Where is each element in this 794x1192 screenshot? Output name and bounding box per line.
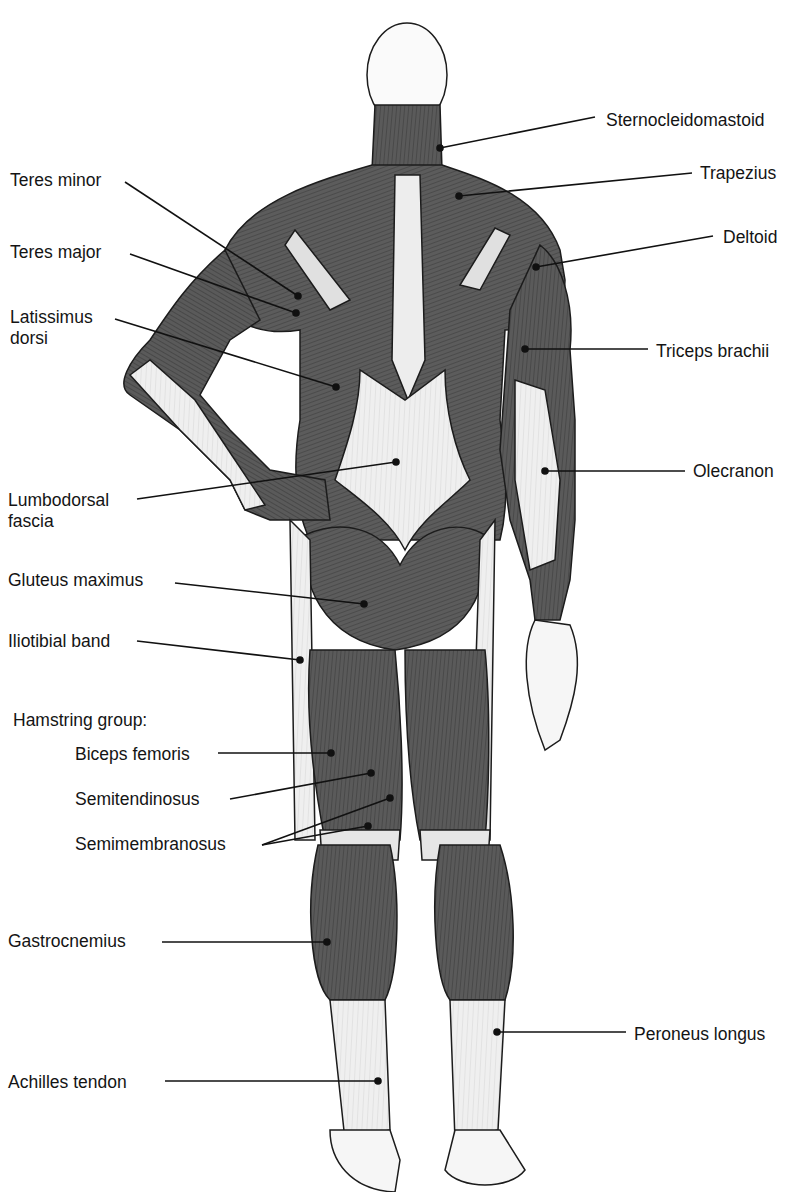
label-gastrocnemius: Gastrocnemius bbox=[8, 931, 126, 952]
label-teres-major: Teres major bbox=[10, 242, 101, 263]
label-deltoid: Deltoid bbox=[723, 227, 777, 248]
label-teres-minor: Teres minor bbox=[10, 170, 101, 191]
label-achilles-tendon: Achilles tendon bbox=[8, 1072, 127, 1093]
anatomy-figure bbox=[0, 0, 794, 1192]
label-semimembranosus: Semimembranosus bbox=[75, 834, 226, 855]
label-sternocleidomastoid: Sternocleidomastoid bbox=[606, 110, 765, 131]
label-iliotibial-band: Iliotibial band bbox=[8, 631, 110, 652]
label-biceps-femoris: Biceps femoris bbox=[75, 744, 190, 765]
body-silhouette bbox=[124, 23, 578, 1192]
label-hamstring-group: Hamstring group: bbox=[13, 710, 147, 731]
label-trapezius: Trapezius bbox=[700, 163, 776, 184]
label-lumbodorsal-fascia: Lumbodorsal fascia bbox=[8, 490, 109, 532]
label-gluteus-maximus: Gluteus maximus bbox=[8, 570, 143, 591]
label-peroneus-longus: Peroneus longus bbox=[634, 1024, 765, 1045]
label-latissimus-dorsi: Latissimus dorsi bbox=[10, 307, 93, 349]
label-triceps-brachii: Triceps brachii bbox=[656, 341, 769, 362]
label-olecranon: Olecranon bbox=[693, 461, 774, 482]
label-semitendinosus: Semitendinosus bbox=[75, 789, 200, 810]
